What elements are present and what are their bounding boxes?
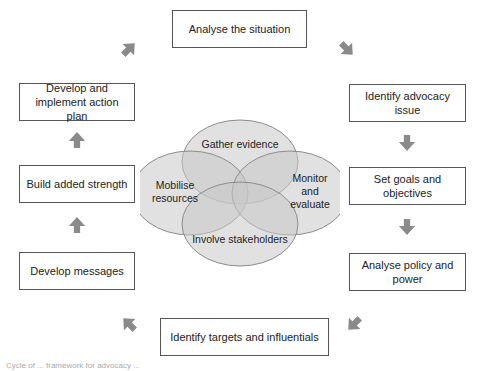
step-label: Identify targets and influentials xyxy=(170,330,319,344)
venn-label-left: Mobilise resources xyxy=(146,179,204,205)
step-label: Analyse policy and power xyxy=(354,258,461,286)
arrow-up-icon xyxy=(68,131,86,149)
box-analyse-policy: Analyse policy and power xyxy=(349,253,466,291)
venn-label-top: Gather evidence xyxy=(188,138,292,151)
box-action-plan: Develop and implement action plan xyxy=(19,83,135,121)
arrow-down-right-icon xyxy=(334,36,359,61)
box-analyse-situation: Analyse the situation xyxy=(172,10,307,48)
box-set-goals: Set goals and objectives xyxy=(349,167,466,205)
arrow-up-right-icon xyxy=(116,36,141,61)
venn-label-bottom: Involve stakeholders xyxy=(180,233,300,246)
step-label: Build added strength xyxy=(27,177,128,191)
step-label: Analyse the situation xyxy=(189,22,291,36)
step-label: Identify advocacy issue xyxy=(354,89,461,117)
figure-caption: Cycle of ... framework for advocacy ... xyxy=(6,361,140,370)
box-identify-issue: Identify advocacy issue xyxy=(349,84,466,122)
box-identify-targets: Identify targets and influentials xyxy=(160,318,329,356)
venn-label-right: Monitor and evaluate xyxy=(286,172,334,211)
step-label: Develop messages xyxy=(30,264,124,278)
box-build-strength: Build added strength xyxy=(19,165,135,203)
arrow-up-left-icon xyxy=(116,311,141,336)
step-label: Set goals and objectives xyxy=(354,172,461,200)
arrow-up-icon xyxy=(68,216,86,234)
arrow-down-icon xyxy=(398,134,416,152)
arrow-down-icon xyxy=(398,218,416,236)
step-label: Develop and implement action plan xyxy=(24,81,130,123)
arrow-down-left-icon xyxy=(341,311,366,336)
box-develop-messages: Develop messages xyxy=(19,252,135,290)
venn-diagram: Gather evidence Mobilise resources Monit… xyxy=(140,118,340,268)
